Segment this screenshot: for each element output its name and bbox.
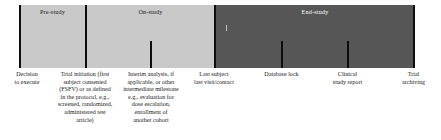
clinical-trial-timeline-figure: Pre-study On-study End-study Decisionto … (0, 0, 441, 140)
phase-label-on-study: On-study (86, 8, 215, 15)
milestone-tick-trial-archiving (413, 5, 415, 68)
milestone-caption-last-subject-last-visit: Last subjectlast visit/contact (180, 71, 248, 86)
phase-label-end-study: End-study (215, 8, 415, 15)
band-artifact-mark (226, 25, 227, 31)
milestone-tick-database-lock (281, 41, 283, 68)
milestone-tick-interim-analysis (150, 41, 152, 68)
milestone-caption-trial-archiving: Trialarchiving (386, 71, 441, 86)
milestone-tick-last-subject-last-visit (214, 5, 216, 68)
milestone-caption-database-lock: Database lock (249, 71, 314, 79)
milestone-caption-clinical-study-report: Clinicalstudy report (316, 71, 379, 86)
milestone-tick-decision-to-execute (19, 5, 21, 68)
milestone-tick-trial-initiation (85, 5, 87, 68)
milestone-tick-clinical-study-report (347, 41, 349, 68)
phase-label-pre-study: Pre-study (19, 8, 86, 15)
